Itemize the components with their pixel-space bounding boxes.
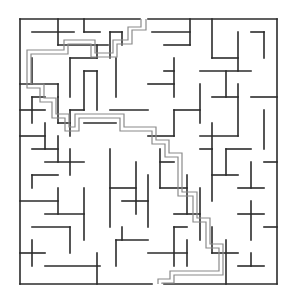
solution-path-line bbox=[27, 19, 219, 284]
maze-svg bbox=[0, 0, 293, 303]
maze-solution-path bbox=[27, 19, 223, 284]
maze-walls bbox=[20, 19, 277, 284]
maze-canvas bbox=[0, 0, 293, 303]
solution-path-line bbox=[31, 19, 223, 284]
